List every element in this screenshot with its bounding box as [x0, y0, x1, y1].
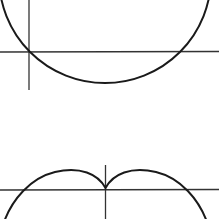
circle-curve [0, 0, 211, 83]
figure-svg [0, 0, 220, 219]
circle-x-axis [0, 52, 219, 53]
polar-curves-figure [0, 0, 220, 219]
circle-diagram [0, 0, 219, 90]
cardioid-diagram [0, 165, 219, 219]
